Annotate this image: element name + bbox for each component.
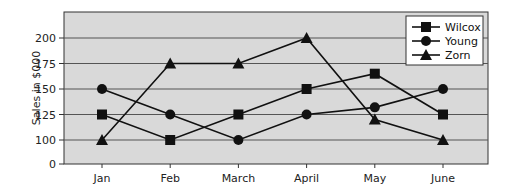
x-tick-label: April — [294, 172, 319, 185]
x-tick-label: May — [363, 172, 386, 185]
svg-text:Zorn: Zorn — [445, 49, 471, 62]
legend: WilcoxYoungZorn — [406, 16, 483, 65]
svg-text:Wilcox: Wilcox — [445, 21, 481, 34]
x-tick-label: June — [430, 172, 455, 185]
x-axis: JanFebMarchAprilMayJune — [93, 164, 456, 185]
y-tick-label: 100 — [35, 134, 56, 147]
svg-text:Young: Young — [444, 35, 478, 48]
x-tick-label: Feb — [160, 172, 179, 185]
y-axis-title: Sales in $000 — [30, 51, 43, 125]
line-chart: 0100125150175200 JanFebMarchAprilMayJune… — [0, 0, 508, 192]
y-tick-label: 200 — [35, 32, 56, 45]
x-tick-label: March — [222, 172, 256, 185]
y-tick-label: 0 — [49, 158, 56, 171]
x-tick-label: Jan — [93, 172, 111, 185]
